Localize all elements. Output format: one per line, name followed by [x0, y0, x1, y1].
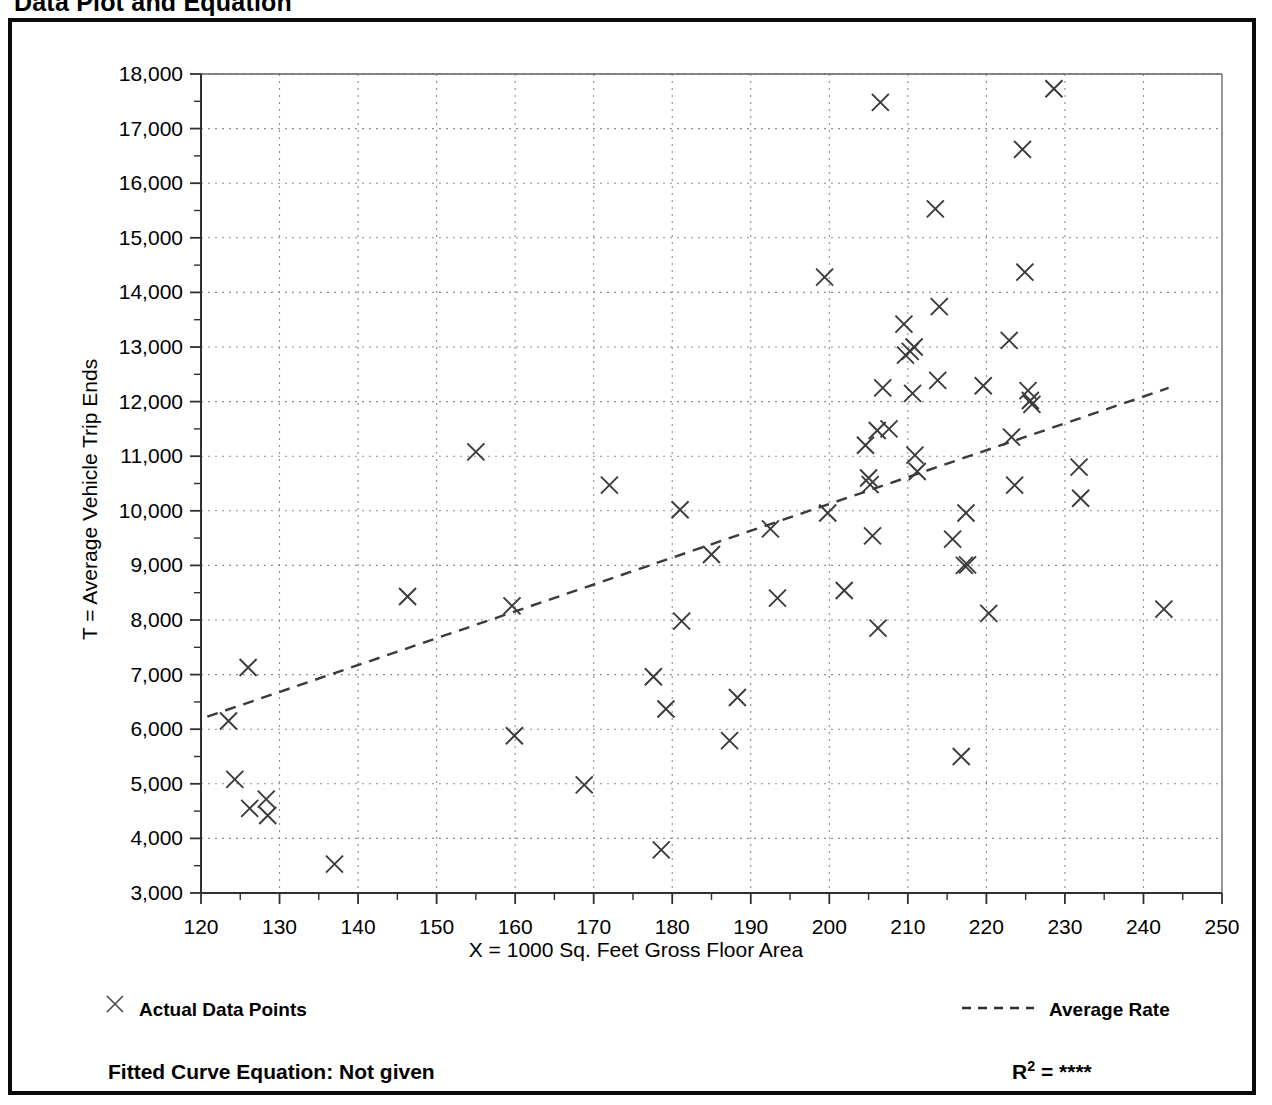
svg-text:11,000: 11,000	[120, 444, 183, 467]
svg-text:16,000: 16,000	[119, 171, 183, 194]
legend-average-rate-label: Average Rate	[1049, 999, 1170, 1021]
svg-text:15,000: 15,000	[119, 226, 183, 249]
fitted-curve-equation-label: Fitted Curve Equation: Not given	[108, 1060, 435, 1084]
page-title: Data Plot and Equation	[14, 0, 292, 17]
r-squared-label: R2 = ****	[1012, 1058, 1092, 1084]
svg-text:10,000: 10,000	[119, 499, 183, 522]
svg-text:180: 180	[655, 915, 690, 938]
r-squared-value: = ****	[1035, 1060, 1092, 1083]
x-marker-icon	[104, 993, 126, 1015]
svg-text:8,000: 8,000	[130, 608, 183, 631]
y-axis-title: T = Average Vehicle Trip Ends	[78, 359, 102, 640]
svg-text:220: 220	[969, 915, 1004, 938]
svg-text:210: 210	[890, 915, 925, 938]
svg-text:150: 150	[419, 915, 454, 938]
svg-text:230: 230	[1047, 915, 1082, 938]
dashed-line-icon	[960, 1004, 1036, 1012]
svg-text:9,000: 9,000	[130, 553, 183, 576]
svg-text:7,000: 7,000	[130, 663, 183, 686]
svg-text:130: 130	[262, 915, 297, 938]
svg-text:140: 140	[341, 915, 376, 938]
svg-text:18,000: 18,000	[119, 62, 183, 85]
r-squared-exponent: 2	[1027, 1058, 1035, 1074]
svg-text:14,000: 14,000	[119, 280, 183, 303]
svg-text:240: 240	[1126, 915, 1161, 938]
svg-text:200: 200	[812, 915, 847, 938]
svg-text:5,000: 5,000	[130, 772, 183, 795]
figure-frame: 3,0004,0005,0006,0007,0008,0009,00010,00…	[8, 18, 1256, 1095]
svg-text:120: 120	[183, 915, 218, 938]
svg-text:13,000: 13,000	[119, 335, 183, 358]
svg-text:160: 160	[498, 915, 533, 938]
r-squared-prefix: R	[1012, 1060, 1027, 1083]
svg-text:12,000: 12,000	[119, 390, 183, 413]
svg-text:250: 250	[1204, 915, 1239, 938]
svg-text:170: 170	[576, 915, 611, 938]
svg-text:4,000: 4,000	[130, 826, 183, 849]
svg-text:17,000: 17,000	[119, 117, 183, 140]
legend-actual-data-points-label: Actual Data Points	[139, 999, 307, 1021]
svg-text:190: 190	[733, 915, 768, 938]
x-axis-title: X = 1000 Sq. Feet Gross Floor Area	[0, 938, 1272, 962]
svg-text:6,000: 6,000	[130, 717, 183, 740]
svg-text:3,000: 3,000	[130, 881, 183, 904]
